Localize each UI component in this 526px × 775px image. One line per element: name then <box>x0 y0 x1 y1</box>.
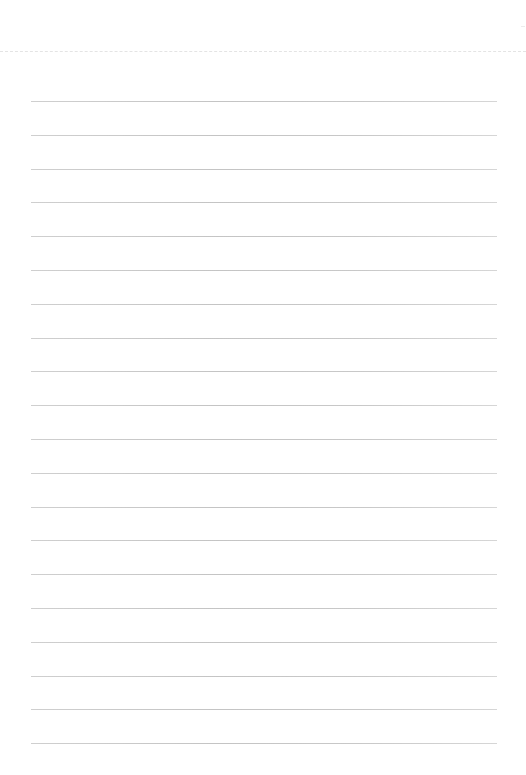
ruled-line <box>31 743 497 744</box>
ruled-line <box>31 574 497 575</box>
ruled-line <box>31 304 497 305</box>
ruled-line <box>31 270 497 271</box>
ruled-line <box>31 608 497 609</box>
ruled-line <box>31 101 497 102</box>
ruled-line <box>31 338 497 339</box>
ruled-line <box>31 676 497 677</box>
ruled-line <box>31 439 497 440</box>
ruled-lines <box>31 0 497 775</box>
ruled-line <box>31 202 497 203</box>
ruled-line <box>31 473 497 474</box>
ruled-line <box>31 236 497 237</box>
ruled-line <box>31 371 497 372</box>
corner-mark <box>521 26 525 27</box>
ruled-line <box>31 540 497 541</box>
notebook-page <box>0 0 526 775</box>
ruled-line <box>31 405 497 406</box>
ruled-line <box>31 135 497 136</box>
ruled-line <box>31 169 497 170</box>
ruled-line <box>31 709 497 710</box>
ruled-line <box>31 642 497 643</box>
ruled-line <box>31 507 497 508</box>
